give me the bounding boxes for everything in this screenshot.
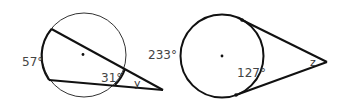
right-major-arc-label: 233°: [148, 48, 177, 62]
right-center-dot: [221, 55, 224, 58]
right-angle-label: z: [310, 56, 316, 69]
left-figure: 57° 31° y: [22, 13, 163, 97]
right-minor-arc-label: 127°: [237, 66, 266, 80]
left-center-dot: [82, 53, 85, 56]
left-near-arc-label: 31°: [101, 71, 122, 85]
left-far-arc-label: 57°: [22, 55, 43, 69]
geometry-diagram: 57° 31° y 233° 127° z: [0, 0, 344, 108]
right-figure: 233° 127° z: [148, 15, 327, 98]
left-angle-label: y: [134, 77, 141, 90]
